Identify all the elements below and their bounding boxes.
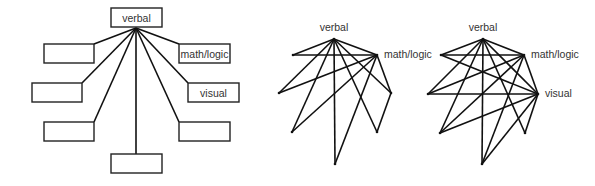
edge-verbal-lm bbox=[428, 39, 483, 94]
node-bottom bbox=[334, 163, 337, 166]
node-lm bbox=[427, 93, 430, 96]
node-label-visual: visual bbox=[200, 87, 227, 99]
node-lr bbox=[524, 132, 527, 135]
edge-rm-lr bbox=[377, 93, 391, 132]
intelligences-diagrams: verbalmath/logicvisual verbalmath/logic … bbox=[0, 0, 595, 186]
edge-verbal-lm bbox=[279, 39, 334, 93]
node-box-n2 bbox=[32, 83, 82, 102]
node-math bbox=[376, 54, 379, 57]
edge-math-visual bbox=[524, 55, 538, 94]
node-label-math: math/logic bbox=[531, 48, 579, 60]
edge-math-lm bbox=[279, 55, 377, 93]
node-label-verbal: verbal bbox=[122, 12, 151, 24]
node-label-math: math/logic bbox=[384, 48, 432, 60]
node-lm bbox=[278, 92, 281, 95]
node-box-bottom bbox=[111, 154, 162, 173]
node-lt bbox=[292, 54, 295, 57]
node-lr bbox=[376, 131, 379, 134]
three-hub-network-diagram: verbalmath/logicvisual bbox=[427, 21, 579, 165]
edge-math-bottom bbox=[335, 55, 377, 164]
edge-verbal-rm bbox=[334, 39, 391, 93]
node-box-n4 bbox=[179, 122, 230, 141]
node-math bbox=[523, 54, 526, 57]
node-ll bbox=[439, 132, 442, 135]
edge-verbal-bottom bbox=[334, 39, 335, 164]
node-box-n3 bbox=[44, 122, 94, 141]
node-label-visual: visual bbox=[545, 87, 572, 99]
node-bottom bbox=[481, 163, 484, 166]
hub-model-diagram: verbalmath/logicvisual bbox=[32, 8, 239, 173]
node-rm bbox=[390, 92, 393, 95]
two-hub-network-diagram: verbalmath/logic bbox=[278, 21, 432, 165]
node-ll bbox=[291, 131, 294, 134]
node-verbal bbox=[333, 38, 336, 41]
node-lt bbox=[440, 54, 443, 57]
node-verbal bbox=[482, 38, 485, 41]
edge-math-bottom bbox=[482, 55, 524, 164]
edge-visual-lt bbox=[441, 55, 538, 94]
node-box-n1 bbox=[44, 44, 94, 63]
node-label-math: math/logic bbox=[181, 48, 229, 60]
edge-math-lm bbox=[428, 55, 524, 94]
edge-visual-lr bbox=[525, 94, 538, 133]
node-label-verbal: verbal bbox=[469, 21, 498, 33]
node-label-verbal: verbal bbox=[320, 21, 349, 33]
edge-verbal-bottom bbox=[482, 39, 483, 164]
node-visual bbox=[537, 93, 540, 96]
